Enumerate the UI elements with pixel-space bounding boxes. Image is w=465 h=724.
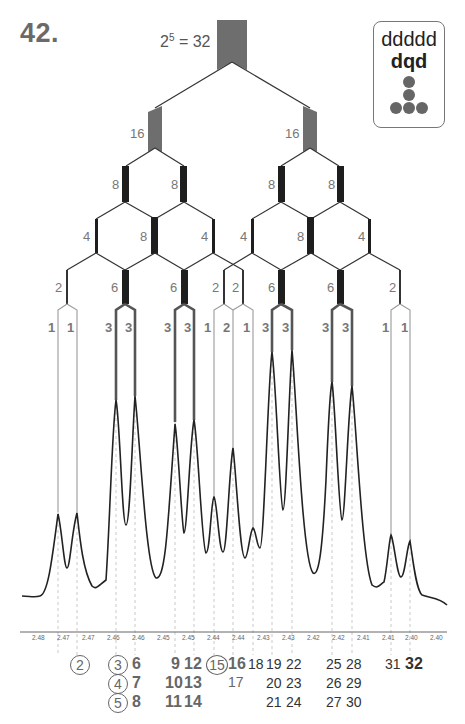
svg-text:2.44: 2.44 <box>207 634 220 641</box>
svg-text:3: 3 <box>164 320 171 335</box>
svg-text:2.40: 2.40 <box>405 634 418 641</box>
svg-text:2.47: 2.47 <box>57 634 70 641</box>
circled-number: 2 <box>70 655 90 675</box>
stem-16-right <box>303 106 317 152</box>
svg-text:1: 1 <box>67 320 74 335</box>
ppm-axis-ticks: 2.48 2.47 2.47 2.46 2.46 2.45 2.45 2.44 … <box>32 634 443 641</box>
splitting-tree-diagram: 42. ddddd dqd 25 = 32 16 16 8 8 <box>0 0 465 724</box>
svg-text:2.41: 2.41 <box>357 634 370 641</box>
svg-text:4: 4 <box>83 229 90 244</box>
svg-text:6: 6 <box>170 280 177 295</box>
svg-text:16: 16 <box>130 126 144 141</box>
svg-text:8: 8 <box>297 229 304 244</box>
svg-text:2: 2 <box>389 280 396 295</box>
svg-text:2.48: 2.48 <box>32 634 45 641</box>
svg-text:2: 2 <box>55 280 62 295</box>
svg-text:1: 1 <box>401 320 408 335</box>
svg-text:2: 2 <box>232 280 239 295</box>
svg-text:3: 3 <box>322 320 329 335</box>
svg-text:8: 8 <box>112 177 119 192</box>
svg-text:8: 8 <box>140 229 147 244</box>
svg-text:8: 8 <box>171 177 178 192</box>
svg-text:2.42: 2.42 <box>307 634 320 641</box>
nmr-spectrum-trace <box>22 350 447 605</box>
svg-text:2: 2 <box>212 280 219 295</box>
svg-text:1: 1 <box>48 320 55 335</box>
svg-text:2.41: 2.41 <box>382 634 395 641</box>
svg-text:2.43: 2.43 <box>257 634 270 641</box>
svg-text:6: 6 <box>111 280 118 295</box>
svg-text:2.42: 2.42 <box>332 634 345 641</box>
svg-text:2.44: 2.44 <box>232 634 245 641</box>
stem-16-left <box>148 106 162 152</box>
svg-text:3: 3 <box>105 320 112 335</box>
svg-text:2: 2 <box>223 320 230 335</box>
svg-text:1: 1 <box>382 320 389 335</box>
svg-text:2.45: 2.45 <box>157 634 170 641</box>
svg-text:4: 4 <box>201 229 208 244</box>
svg-text:2.46: 2.46 <box>132 634 145 641</box>
svg-text:3: 3 <box>342 320 349 335</box>
svg-text:2.46: 2.46 <box>107 634 120 641</box>
svg-text:4: 4 <box>358 229 365 244</box>
svg-text:3: 3 <box>282 320 289 335</box>
svg-text:4: 4 <box>240 229 247 244</box>
svg-text:2.43: 2.43 <box>282 634 295 641</box>
svg-text:3: 3 <box>262 320 269 335</box>
svg-text:1: 1 <box>243 320 250 335</box>
svg-text:6: 6 <box>327 280 334 295</box>
svg-text:16: 16 <box>285 126 299 141</box>
svg-text:3: 3 <box>184 320 191 335</box>
tree-svg: 16 16 8 8 8 8 4 8 4 4 8 <box>0 0 465 724</box>
svg-text:8: 8 <box>328 177 335 192</box>
svg-text:3: 3 <box>125 320 132 335</box>
svg-text:8: 8 <box>268 177 275 192</box>
svg-text:2.47: 2.47 <box>82 634 95 641</box>
svg-text:2.45: 2.45 <box>182 634 195 641</box>
svg-text:2.40: 2.40 <box>430 634 443 641</box>
svg-text:6: 6 <box>268 280 275 295</box>
svg-text:1: 1 <box>204 320 211 335</box>
